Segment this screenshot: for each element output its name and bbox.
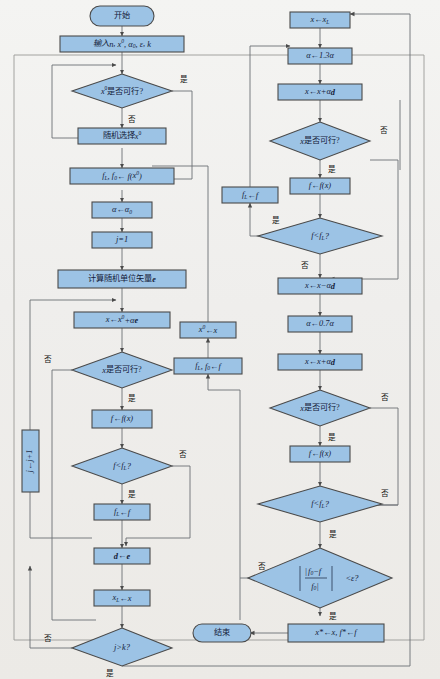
node-x-plus-alpha-d-2-label: x←x+αd	[304, 357, 336, 366]
node-x-plus-alpha-d-1[interactable]: x←x+αd	[278, 84, 362, 100]
node-init-fl-f0[interactable]: fL, f0← f(x0)	[70, 168, 174, 184]
branch-label-yes-jgtk: 是	[106, 669, 114, 678]
branch-label-yes-converge: 是	[329, 612, 337, 621]
node-f-eval-3-label: f←f(x)	[309, 449, 332, 458]
node-start[interactable]: 开始	[90, 6, 154, 26]
node-f-eval-2-label: f←f(x)	[309, 181, 332, 190]
node-decision-x-feasible-2-label: x是否可行?	[299, 135, 340, 145]
node-decision-f-lt-fl-3[interactable]: f<fL?	[258, 486, 382, 522]
branch-label-no-xfeas3: 否	[381, 393, 389, 402]
node-x-minus-alpha-d-label: x←x−αd	[304, 281, 336, 290]
node-alpha-increase-label: α←1.3α	[306, 51, 334, 60]
node-decision-x-feasible-1-label: x是否可行?	[101, 364, 142, 374]
node-decision-j-gt-k-label: j>k?	[113, 643, 131, 652]
node-f-eval-1-label: f←f(x)	[111, 414, 134, 423]
node-decision-j-gt-k[interactable]: j>k?	[72, 628, 172, 666]
node-alpha-init-label: α←α0	[112, 205, 132, 214]
node-init-fl-f0-label: fL, f0← f(x0)	[102, 170, 142, 181]
node-decision-f-lt-fl-3-label: f<fL?	[311, 499, 329, 508]
node-j-increment-label: j←j+1	[25, 450, 34, 474]
node-xl-update-label: xL←x	[112, 593, 132, 602]
node-result-label: x*←x, f*←f	[314, 628, 358, 637]
node-x0-from-x[interactable]: x0←x	[180, 322, 236, 338]
branch-label-yes-ffl1: 是	[128, 490, 136, 499]
node-random-select-x0[interactable]: 随机选择x0	[78, 128, 166, 144]
node-alpha-decrease-label: α←0.7α	[306, 319, 334, 328]
branch-label-no-x0: 否	[128, 115, 136, 124]
branch-label-no-ffl2: 否	[301, 261, 309, 270]
node-alpha-increase[interactable]: α←1.3α	[288, 48, 352, 64]
node-j-increment[interactable]: j←j+1	[22, 430, 39, 492]
branch-label-no-converge: 否	[258, 562, 266, 571]
node-decision-f-lt-fl-1[interactable]: f<fL?	[72, 448, 172, 484]
node-decision-x-feasible-1[interactable]: x是否可行?	[72, 352, 172, 388]
node-random-unit-vector-label: 计算随机单位矢量e	[88, 273, 156, 283]
node-f-eval-1[interactable]: f←f(x)	[92, 410, 152, 428]
node-result[interactable]: x*←x, f*←f	[288, 624, 384, 642]
node-fl-f0-update[interactable]: fL, f0←f	[174, 358, 242, 374]
node-decision-x-feasible-2[interactable]: x是否可行?	[270, 122, 370, 160]
svg-text:<ε?: <ε?	[345, 574, 359, 583]
branch-label-yes-xfeas1: 是	[128, 394, 136, 403]
node-decision-f-lt-fl-2-label: f<fL?	[311, 231, 329, 240]
node-end-label: 结束	[214, 627, 230, 637]
branch-label-yes-ffl3: 是	[329, 530, 337, 539]
node-fl-update-1[interactable]: fL←f	[94, 504, 150, 520]
branch-label-yes-xfeas3: 是	[328, 433, 336, 442]
node-alpha-init[interactable]: α←α0	[92, 202, 152, 218]
node-alpha-decrease[interactable]: α←0.7α	[288, 316, 352, 332]
node-x-plus-alpha-d-1-label: x←x+αd	[304, 87, 336, 96]
node-xl-update[interactable]: xL←x	[94, 590, 150, 606]
node-x-from-xl[interactable]: x←xL	[290, 12, 350, 28]
flowchart-canvas: 开始 输入n, x0, α0, ε, k x0是否可行? 随机选择x0	[0, 0, 440, 679]
node-decision-x0-feasible[interactable]: x0是否可行?	[72, 74, 172, 108]
node-f-eval-3[interactable]: f←f(x)	[290, 446, 350, 462]
branch-label-no-ffl3: 否	[381, 489, 389, 498]
branch-label-no-xfeas2: 否	[380, 126, 388, 135]
node-d-update-label: d←e	[114, 551, 131, 560]
branch-label-no-jgtk: 否	[44, 634, 52, 643]
svg-text:|f0−f: |f0−f	[305, 567, 323, 576]
node-decision-f-lt-fl-1-label: f<fL?	[113, 461, 131, 470]
node-decision-x-feasible-3-label: x是否可行?	[299, 402, 340, 412]
node-x-plus-alpha-d-2[interactable]: x←x+αd	[278, 354, 362, 370]
node-fl-update-2[interactable]: fL←f	[222, 187, 278, 203]
node-f-eval-2[interactable]: f←f(x)	[290, 178, 350, 194]
node-j-init[interactable]: j=1	[92, 232, 152, 248]
node-random-select-x0-label: 随机选择x0	[103, 130, 142, 141]
node-d-update[interactable]: d←e	[94, 548, 150, 564]
flowchart-svg: 开始 输入n, x0, α0, ε, k x0是否可行? 随机选择x0	[0, 0, 440, 679]
node-x-minus-alpha-d[interactable]: x←x−αd	[278, 278, 362, 294]
branch-label-yes-ffl2: 是	[272, 216, 280, 225]
node-random-unit-vector[interactable]: 计算随机单位矢量e	[58, 270, 186, 288]
node-x0-from-x-label: x0←x	[198, 324, 218, 335]
branch-label-yes-x0: 是	[180, 75, 188, 84]
branch-label-no-ffl1: 否	[179, 450, 187, 459]
node-decision-x-feasible-3[interactable]: x是否可行?	[270, 390, 370, 426]
node-j-init-label: j=1	[115, 235, 128, 244]
node-x-update-1[interactable]: x←x0+αe	[74, 312, 170, 328]
node-decision-x0-feasible-label: x0是否可行?	[100, 85, 143, 96]
node-decision-convergence[interactable]: |f0−f f0| <ε?	[248, 548, 392, 608]
node-start-label: 开始	[114, 10, 130, 20]
branch-label-yes-xfeas2: 是	[328, 165, 336, 174]
branch-label-no-xfeas1: 否	[44, 355, 52, 364]
node-end[interactable]: 结束	[193, 624, 251, 642]
node-input[interactable]: 输入n, x0, α0, ε, k	[60, 36, 184, 52]
